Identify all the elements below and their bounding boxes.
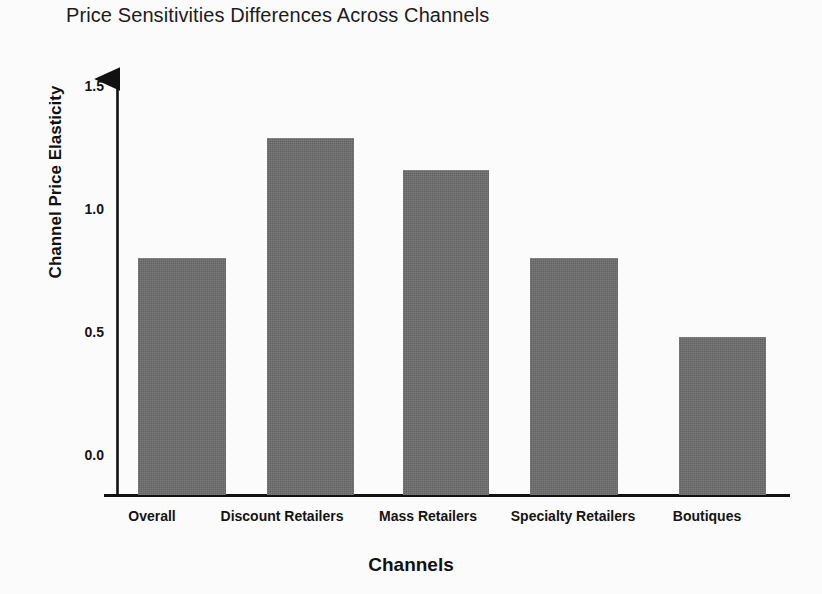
x-axis-title: Channels bbox=[0, 554, 822, 576]
bars-layer bbox=[0, 0, 822, 495]
chart-figure: Price Sensitivities Differences Across C… bbox=[0, 0, 822, 594]
x-tick-label-overall: Overall bbox=[128, 508, 175, 524]
bar-specialty-retailers bbox=[530, 258, 618, 495]
bar-mass-retailers bbox=[403, 170, 489, 495]
bar-boutiques bbox=[679, 337, 766, 495]
x-tick-label-boutiques: Boutiques bbox=[673, 508, 741, 524]
bar-discount-retailers bbox=[267, 138, 354, 495]
bar-overall bbox=[138, 258, 226, 495]
x-tick-label-specialty-retailers: Specialty Retailers bbox=[511, 508, 636, 524]
x-tick-label-discount-retailers: Discount Retailers bbox=[221, 508, 344, 524]
plot-area: 1.5 1.0 0.5 0.0 Channel Price Elasticity… bbox=[0, 0, 822, 594]
x-tick-label-mass-retailers: Mass Retailers bbox=[379, 508, 477, 524]
